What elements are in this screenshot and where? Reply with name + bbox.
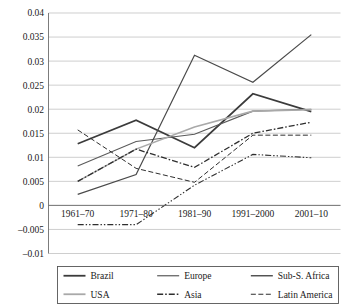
legend-label: USA (91, 290, 110, 300)
legend-item-usa[interactable]: USA (64, 290, 110, 300)
legend-label: Europe (184, 271, 211, 281)
legend-item-europe[interactable]: Europe (157, 271, 211, 281)
legend-item-brazil[interactable]: Brazil (64, 271, 115, 281)
series-line-brazil (78, 94, 312, 148)
x-axis-tick-label: 1991–2000 (232, 209, 275, 219)
y-axis-tick-label: 0.02 (27, 105, 44, 115)
legend-label: Sub-S. Africa (278, 271, 331, 281)
x-axis-tick-label: 1961–70 (61, 209, 95, 219)
legend-label: Latin America (278, 290, 333, 300)
x-axis-tick-label: 1971–80 (119, 209, 153, 219)
series-line-sub-s-africa (78, 35, 312, 195)
legend-item-sub-s-africa[interactable]: Sub-S. Africa (251, 271, 331, 281)
x-axis-tick-label: 2001–10 (295, 209, 329, 219)
y-axis-tick-label: 0 (39, 201, 44, 211)
legend-item-latin-america[interactable]: Latin America (251, 290, 333, 300)
y-axis-tick-label: –0.01 (22, 249, 45, 259)
y-axis-tick-labels: –0.01–0.00500.0050.010.0150.020.0250.030… (17, 8, 44, 259)
chart-canvas: –0.01–0.00500.0050.010.0150.020.0250.030… (0, 0, 346, 308)
legend-label: Brazil (91, 271, 115, 281)
y-axis-tick-label: 0.01 (27, 153, 44, 163)
chart-legend: BrazilEuropeSub-S. AfricaUSAAsiaLatin Am… (58, 267, 339, 304)
y-axis-tick-label: –0.005 (17, 225, 44, 235)
y-axis-tick-label: 0.025 (23, 81, 45, 91)
y-axis-tick-label: 0.035 (23, 32, 45, 42)
data-series (78, 35, 312, 225)
series-line-latin-america (78, 130, 312, 182)
series-line-usa (78, 110, 312, 182)
x-axis-tick-labels: 1961–701971–801981–901991–20002001–10 (61, 209, 328, 219)
y-axis-tick-label: 0.005 (23, 177, 45, 187)
line-chart: –0.01–0.00500.0050.010.0150.020.0250.030… (0, 0, 346, 308)
legend-item-asia[interactable]: Asia (157, 290, 202, 300)
legend-label: Asia (184, 290, 202, 300)
x-axis-tick-label: 1981–90 (178, 209, 212, 219)
y-axis-tick-label: 0.04 (27, 8, 44, 18)
y-axis-tick-label: 0.015 (23, 129, 45, 139)
y-axis-tick-label: 0.03 (27, 57, 44, 67)
